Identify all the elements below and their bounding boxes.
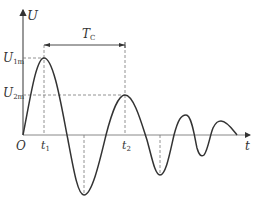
x-axis-label: t — [245, 139, 250, 153]
dashed-guides — [23, 45, 160, 195]
period-label: TC — [82, 27, 95, 42]
waveform-diagram: U t O t1 t2 U1m U2m TC — [0, 0, 257, 201]
u1m-label: U1m — [3, 51, 25, 66]
t1-label: t1 — [41, 139, 50, 153]
origin-label: O — [16, 139, 26, 153]
waveform-curve — [23, 58, 237, 195]
y-axis-label: U — [27, 8, 39, 23]
t2-label: t2 — [122, 139, 131, 153]
period-dimension — [44, 42, 125, 48]
u2m-label: U2m — [3, 86, 25, 101]
